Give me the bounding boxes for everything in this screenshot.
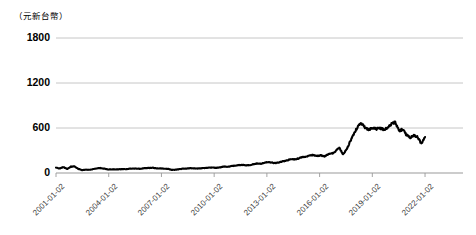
price-series-line (56, 122, 425, 171)
gridlines-group (56, 38, 463, 173)
stock-price-line-chart: （元新台幣） 060012001800 2001-01-022004-01-02… (0, 0, 476, 235)
y-tick-label: 1800 (4, 31, 50, 43)
y-tick-label: 1200 (4, 76, 50, 88)
x-axis-tickmarks-group (56, 173, 425, 177)
chart-plot-area (0, 0, 476, 235)
y-tick-label: 0 (4, 166, 50, 178)
y-tick-label: 600 (4, 121, 50, 133)
